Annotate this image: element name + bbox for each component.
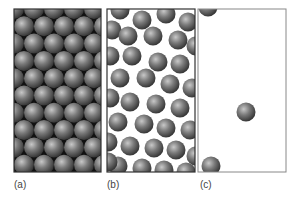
particle-sphere (64, 34, 84, 54)
particle-sphere (44, 68, 64, 88)
particle-sphere (155, 161, 174, 180)
particle-sphere (137, 69, 156, 88)
particle-sphere (54, 16, 74, 36)
particle-sphere (149, 53, 168, 72)
particle-sphere (111, 1, 130, 20)
particle-sphere (74, 16, 94, 36)
particle-sphere (74, 86, 94, 106)
particle-sphere (123, 47, 142, 66)
particle-sphere (133, 159, 152, 178)
states-of-matter-figure (0, 0, 303, 202)
particle-sphere (34, 16, 54, 36)
particle-sphere (157, 5, 176, 24)
particle-sphere (64, 172, 84, 192)
particle-sphere (44, 137, 64, 157)
particle-sphere (34, 51, 54, 71)
particle-sphere (54, 120, 74, 140)
particle-sphere (145, 139, 164, 158)
particle-sphere (44, 172, 64, 192)
particle-sphere (34, 120, 54, 140)
particle-sphere (202, 157, 221, 176)
particle-sphere (44, 34, 64, 54)
particle-sphere (84, 172, 104, 192)
panel-a-particles (4, 0, 124, 192)
panel-b-liquid (99, 1, 206, 182)
particle-sphere (14, 16, 34, 36)
particle-sphere (237, 103, 256, 122)
particle-sphere (34, 86, 54, 106)
panel-c-label: (c) (200, 179, 212, 190)
particle-sphere (24, 137, 44, 157)
particle-sphere (144, 27, 163, 46)
particle-sphere (14, 120, 34, 140)
particle-sphere (64, 68, 84, 88)
particle-sphere (147, 95, 166, 114)
particle-sphere (101, 89, 120, 108)
particle-sphere (44, 103, 64, 123)
particle-sphere (181, 121, 200, 140)
particle-sphere (121, 93, 140, 112)
particle-sphere (169, 31, 188, 50)
particle-sphere (171, 55, 190, 74)
particle-sphere (161, 75, 180, 94)
panel-c-background (198, 9, 286, 172)
particle-sphere (24, 68, 44, 88)
particle-sphere (74, 120, 94, 140)
particle-sphere (135, 115, 154, 134)
particle-sphere (64, 137, 84, 157)
particle-sphere (64, 103, 84, 123)
particle-sphere (24, 103, 44, 123)
particle-sphere (109, 113, 128, 132)
particle-sphere (101, 47, 120, 66)
particle-sphere (171, 99, 190, 118)
particle-sphere (111, 69, 130, 88)
particle-sphere (119, 27, 138, 46)
particle-sphere (54, 51, 74, 71)
particle-sphere (24, 172, 44, 192)
particle-sphere (121, 137, 140, 156)
particle-sphere (14, 86, 34, 106)
panel-c-gas (198, 0, 286, 176)
panel-b-label: (b) (107, 179, 119, 190)
particle-sphere (74, 51, 94, 71)
particle-sphere (167, 141, 186, 160)
panel-a-label: (a) (14, 179, 26, 190)
particle-sphere (54, 86, 74, 106)
particle-sphere (133, 11, 152, 30)
particle-sphere (157, 119, 176, 138)
particle-sphere (24, 34, 44, 54)
panel-a-solid (4, 0, 124, 192)
particle-sphere (14, 51, 34, 71)
